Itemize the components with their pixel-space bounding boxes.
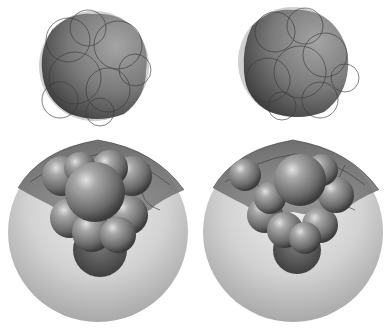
figure-canvas [0,0,387,328]
central-atom [274,154,326,206]
bottom-right-sphere [203,140,383,322]
central-atom [65,162,125,222]
bottom-left-sphere [8,140,188,322]
top-right-sphere [238,7,359,120]
top-left-sphere [39,10,151,126]
